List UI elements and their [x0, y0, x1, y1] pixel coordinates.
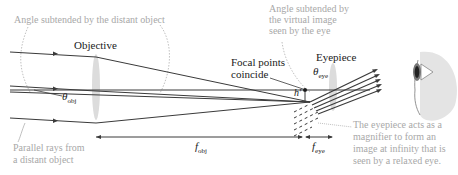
eyepiece-note-pointer [318, 123, 352, 127]
virtual-rays [294, 104, 318, 136]
label-eyepiece-note-line2: magnifier to form an [353, 132, 436, 143]
label-h-prime: h′ [294, 88, 301, 99]
label-angle-virtual-image-line1: Angle subtended by [269, 4, 349, 15]
telescope-diagram: Angle subtended by the distant object Ob… [0, 0, 458, 175]
label-theta-eye: θeye [313, 66, 328, 81]
label-f-eye: feye [312, 141, 325, 156]
label-eyepiece-note-line3: image at infinity that is [353, 144, 446, 155]
eye-shadow [420, 52, 457, 121]
label-focal-points-line1: Focal points [231, 57, 285, 69]
angle-arc-eye [282, 42, 310, 92]
label-angle-virtual-image-line3: seen by the eye [269, 26, 330, 37]
angle-arc-object-right [160, 25, 169, 93]
label-eyepiece: Eyepiece [316, 52, 356, 64]
label-angle-virtual-image-line2: the virtual image [269, 15, 337, 26]
angle-arc-object [21, 27, 30, 92]
label-eyepiece-note-line4: seen by a relaxed eye. [353, 156, 441, 167]
label-parallel-rays-line2: a distant object [13, 155, 74, 166]
label-theta-obj: θobj [62, 91, 76, 106]
label-parallel-rays-line1: Parallel rays from [13, 143, 85, 154]
parallel-rays-pointer [18, 123, 25, 142]
label-objective: Objective [74, 40, 117, 52]
label-angle-distant-object: Angle subtended by the distant object [14, 15, 165, 26]
objective-lens-icon [92, 54, 100, 120]
label-eyepiece-note-line1: The eyepiece acts as a [353, 120, 442, 131]
label-f-obj: fobj [195, 141, 207, 156]
label-focal-points-line2: coincide [231, 69, 268, 81]
